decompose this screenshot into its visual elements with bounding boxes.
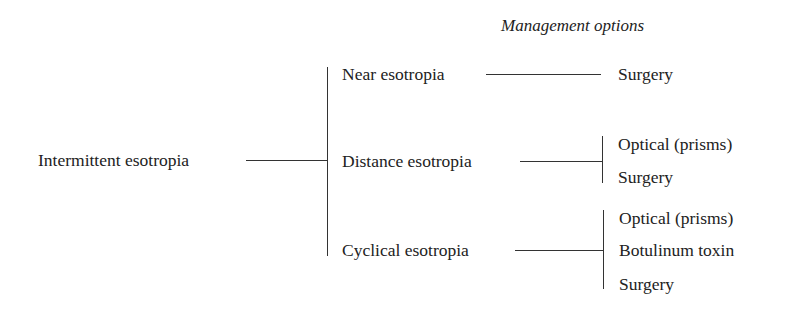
option-cyclical-botulinum-toxin: Botulinum toxin xyxy=(619,240,734,260)
branch-near-esotropia: Near esotropia xyxy=(342,64,445,84)
option-cyclical-surgery: Surgery xyxy=(619,274,674,294)
diagram-canvas: Management options Intermittent esotropi… xyxy=(0,0,807,315)
option-distance-optical-prisms: Optical (prisms) xyxy=(618,134,732,154)
root-node-intermittent-esotropia: Intermittent esotropia xyxy=(38,150,189,170)
option-distance-surgery: Surgery xyxy=(618,167,673,187)
branch-distance-esotropia: Distance esotropia xyxy=(342,151,472,171)
distance-connector-line xyxy=(520,161,603,162)
option-cyclical-optical-prisms: Optical (prisms) xyxy=(619,208,733,228)
near-connector-line xyxy=(486,74,601,75)
branch-bracket-line xyxy=(327,67,328,256)
management-options-header: Management options xyxy=(501,16,644,36)
option-near-surgery: Surgery xyxy=(618,64,673,84)
root-connector-line xyxy=(246,160,328,161)
cyclical-options-bracket xyxy=(603,210,604,289)
branch-cyclical-esotropia: Cyclical esotropia xyxy=(342,240,469,260)
distance-options-bracket xyxy=(602,136,603,183)
cyclical-connector-line xyxy=(515,250,604,251)
